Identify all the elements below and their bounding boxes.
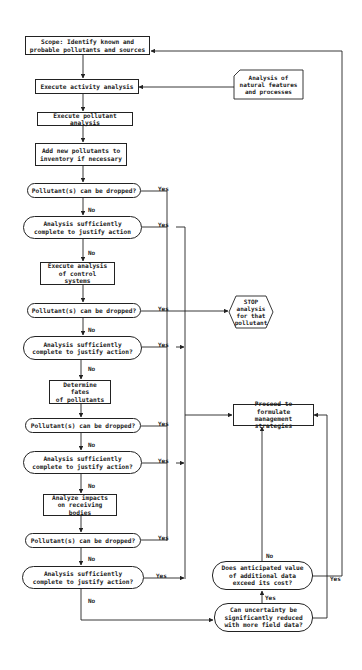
determine-fates-box: Determine fates of pollutants: [49, 380, 111, 404]
decision-analysis-complete-4: Analysis sufficiently complete to justif…: [22, 566, 144, 589]
decision-pollutant-dropped-1: Pollutant(s) can be dropped?: [27, 183, 141, 198]
scope-box: Scope: Identify known and probable pollu…: [25, 36, 150, 55]
decision-analysis-complete-3: Analysis sufficiently complete to justif…: [23, 451, 142, 474]
label-no-7: No: [88, 555, 95, 562]
stop-hexagon: STOP analysis for that pollutant: [229, 296, 273, 328]
add-new-pollutants-box: Add new pollutants to inventory if neces…: [35, 143, 127, 166]
execute-control-systems-box: Execute analysis of control systems: [40, 262, 115, 285]
label-no-5: No: [88, 441, 95, 448]
label-no-8: No: [88, 597, 95, 604]
label-no-3: No: [88, 326, 95, 333]
proceed-management-box: Proceed to formulate management strategi…: [233, 404, 314, 426]
label-yes-2: Yes: [158, 221, 169, 228]
label-yes-6: Yes: [158, 457, 169, 464]
label-no-anticipated: No: [266, 552, 273, 559]
label-yes-8: Yes: [156, 572, 167, 579]
decision-pollutant-dropped-2: Pollutant(s) can be dropped?: [27, 303, 141, 318]
label-yes-3: Yes: [158, 305, 169, 312]
decision-pollutant-dropped-4: Pollutant(s) can be dropped?: [25, 533, 141, 548]
label-yes-7: Yes: [158, 534, 169, 541]
natural-features-text: Analysis of natural features and process…: [234, 70, 303, 99]
decision-analysis-complete-2: Analysis sufficiently complete to justif…: [23, 336, 142, 360]
label-yes-uncertainty: Yes: [265, 594, 276, 601]
label-yes-4: Yes: [158, 341, 169, 348]
decision-anticipated-value: Does anticipated value of additional dat…: [212, 561, 313, 590]
label-no-6: No: [88, 482, 95, 489]
decision-pollutant-dropped-3: Pollutant(s) can be dropped?: [25, 418, 141, 433]
label-no-2: No: [88, 249, 95, 256]
label-yes-1: Yes: [158, 185, 169, 192]
label-no-4: No: [88, 365, 95, 372]
execute-activity-analysis-box: Execute activity analysis: [35, 79, 139, 94]
decision-uncertainty-reduced: Can uncertainty be significantly reduced…: [214, 603, 313, 632]
label-yes-anticipated: Yes: [330, 575, 341, 582]
stop-text: STOP analysis for that pollutant: [229, 296, 273, 328]
decision-analysis-complete-1: Analysis sufficiently complete to justif…: [23, 216, 142, 239]
natural-features-card: Analysis of natural features and process…: [234, 70, 303, 99]
label-no-1: No: [88, 206, 95, 213]
execute-pollutant-analysis-box: Execute pollutant analysis: [37, 112, 133, 126]
analyze-impacts-box: Analyze impacts on receiving bodies: [43, 494, 117, 516]
label-yes-5: Yes: [158, 420, 169, 427]
